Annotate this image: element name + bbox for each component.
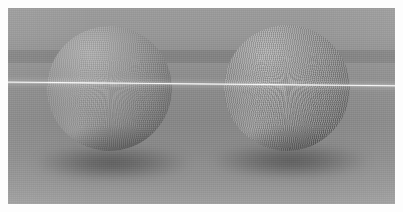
sphere-left[interactable] [47, 26, 172, 151]
render-frame: Two shaded spheres on a ground plane [0, 0, 403, 212]
scene-title: Two shaded spheres on a ground plane [0, 0, 1, 1]
contact-shadow-left-sphere [38, 146, 186, 180]
sphere-right-limb-facets [224, 25, 350, 151]
sphere-left-limb-facets [47, 26, 172, 151]
sphere-right[interactable] [224, 25, 350, 151]
render-viewport[interactable] [8, 8, 395, 204]
